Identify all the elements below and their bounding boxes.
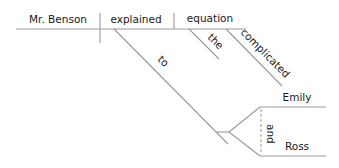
preposition-line [114, 29, 228, 144]
direct-object-word: equation [187, 12, 233, 24]
compound-object-word-1: Emily [283, 91, 312, 103]
fork-lower-branch [229, 132, 260, 156]
compound-object-word-2: Ross [285, 140, 309, 152]
verb-word: explained [110, 13, 161, 25]
preposition-word: to [156, 53, 172, 69]
subject-word: Mr. Benson [29, 13, 87, 25]
sentence-diagram: Mr. Benson explained equation the compli… [0, 0, 339, 168]
conjunction-word: and [265, 124, 277, 144]
fork-upper-branch [229, 107, 260, 132]
adjective-word: complicated [239, 26, 293, 80]
